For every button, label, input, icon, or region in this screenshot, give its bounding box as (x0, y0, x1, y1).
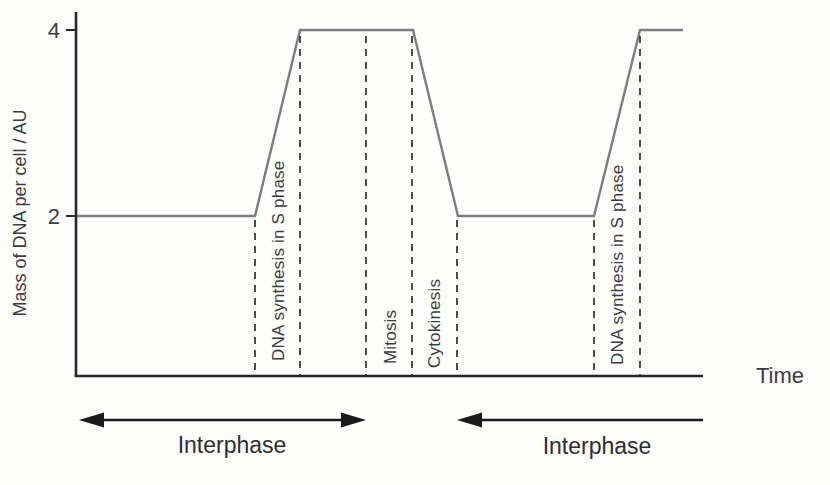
arrowhead-left-icon (457, 413, 482, 428)
x-axis-title: Time (756, 363, 804, 388)
interphase-arrow-right (457, 413, 703, 428)
y-tick-label-4: 4 (48, 18, 60, 43)
phase-label-s-phase-1: DNA synthesis in S phase (269, 161, 288, 361)
interphase-label-right: Interphase (543, 433, 652, 459)
phase-label-cytokinesis: Cytokinesis (425, 279, 444, 368)
y-tick-label-2: 2 (48, 204, 60, 229)
interphase-arrow-left (79, 413, 366, 428)
arrowhead-right-icon (341, 413, 366, 428)
phase-label-s-phase-2: DNA synthesis in S phase (608, 165, 627, 365)
arrowhead-left-icon (79, 413, 104, 428)
dna-mass-curve (76, 30, 683, 216)
y-axis-title: Mass of DNA per cell / AU (10, 109, 30, 316)
interphase-label-left: Interphase (178, 432, 287, 458)
cell-cycle-dna-mass-chart: 4 2 Mass of DNA per cell / AU Time DNA s… (0, 0, 830, 485)
phase-label-mitosis: Mitosis (381, 310, 400, 364)
